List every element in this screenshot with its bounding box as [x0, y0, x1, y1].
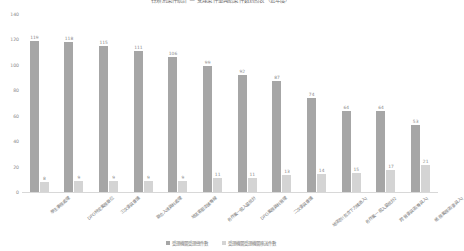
bar-group: 1069: [161, 57, 196, 192]
legend-swatch-icon: [222, 241, 226, 245]
x-axis-tick-label: 地區別(包含下方構造入): [331, 195, 368, 227]
y-axis-tick-label: 0: [0, 190, 19, 195]
bar-value-label: 64: [344, 105, 350, 110]
bar-group: 1198: [22, 41, 57, 192]
bar-secondary: 8: [40, 182, 49, 192]
bar-secondary: 11: [213, 178, 222, 192]
legend-label: 受理機關受理總件數: [172, 240, 208, 246]
x-axis-tick-label: 帳務業務區(委員入): [433, 195, 464, 222]
bar-group: 8713: [265, 81, 300, 192]
y-axis-tick-label: 140: [0, 12, 19, 17]
legend-entry[interactable]: 受理機關受理機關移送件數: [222, 240, 276, 246]
bar-secondary: 13: [282, 175, 291, 192]
x-axis-tick-label: 地區客服支援專線: [189, 195, 217, 220]
bar-value-label: 106: [169, 51, 177, 56]
bar-value-label: 8: [43, 176, 46, 181]
bar-value-label: 119: [30, 35, 38, 40]
bar-value-label: 17: [388, 164, 394, 169]
bar-primary: 111: [134, 51, 143, 192]
bar-value-label: 99: [205, 60, 211, 65]
bar-primary: 92: [238, 75, 247, 192]
bar-secondary: 17: [386, 170, 395, 192]
bar-secondary: 9: [144, 181, 153, 192]
plot-area: 1198118911591119106999119211871374146415…: [22, 14, 438, 192]
x-axis-tick-label: 各作業一般入量統計: [225, 195, 256, 223]
x-axis-tick-label: 三次委員會議: [118, 195, 140, 215]
y-axis-tick-label: 80: [0, 88, 19, 93]
bar-primary: 64: [342, 111, 351, 192]
bar-primary: 74: [307, 98, 316, 192]
bar-primary: 99: [203, 66, 212, 192]
bar-value-label: 87: [274, 75, 280, 80]
bar-secondary: 9: [109, 181, 118, 192]
y-axis-tick-label: 60: [0, 113, 19, 118]
bar-primary: 119: [30, 41, 39, 192]
axis-baseline: [22, 192, 438, 193]
y-axis-tick-label: 40: [0, 139, 19, 144]
bar-value-label: 9: [112, 175, 115, 180]
bar-secondary: 21: [421, 165, 430, 192]
x-axis-tick-label: 聯合入境資料處理: [155, 195, 183, 220]
bar-value-label: 13: [284, 169, 290, 174]
x-axis-tick-label: 二次委員會議: [292, 195, 314, 215]
bar-value-label: 21: [423, 159, 429, 164]
y-axis-tick-label: 20: [0, 164, 19, 169]
bar-group: 9211: [230, 75, 265, 192]
legend-swatch-icon: [166, 241, 170, 245]
bar-group: 5321: [403, 125, 438, 192]
bar-primary: 106: [168, 57, 177, 192]
x-axis-tick-label: 學生事務處理: [49, 195, 71, 215]
x-axis-tick-label: DPO業務資料管理: [259, 195, 288, 221]
bar-value-label: 14: [319, 168, 325, 173]
bar-group: 9911: [195, 66, 230, 192]
x-axis-tick-label: DPO特定業務單位: [86, 195, 115, 221]
chart-title: 各類別案件統計 — 受理案件量與結案件數對照表（近年度）: [0, 0, 442, 4]
bar-secondary: 15: [352, 173, 361, 192]
legend-entry[interactable]: 受理機關受理總件數: [166, 240, 208, 246]
bar-value-label: 11: [250, 172, 256, 177]
bar-value-label: 92: [240, 69, 246, 74]
bar-primary: 115: [99, 46, 108, 192]
bar-primary: 87: [272, 81, 281, 192]
bar-value-label: 111: [134, 45, 142, 50]
bar-secondary: 14: [317, 174, 326, 192]
bar-value-label: 118: [65, 36, 73, 41]
bar-group: 6415: [334, 111, 369, 192]
bar-secondary: 9: [74, 181, 83, 192]
bar-value-label: 53: [413, 119, 419, 124]
bar-group: 6417: [369, 111, 404, 192]
bar-value-label: 15: [354, 167, 360, 172]
bar-secondary: 9: [178, 181, 187, 192]
bar-value-label: 9: [147, 175, 150, 180]
bar-secondary: 11: [248, 178, 257, 192]
bar-value-label: 115: [99, 40, 107, 45]
bar-group: 1119: [126, 51, 161, 192]
bar-value-label: 9: [78, 175, 81, 180]
legend-label: 受理機關受理機關移送件數: [228, 240, 276, 246]
x-axis-tick-label: 跨管委員區(專員入): [398, 195, 429, 222]
chart-legend: 受理機關受理總件數受理機關受理機關移送件數: [0, 240, 442, 246]
bar-group: 1159: [91, 46, 126, 192]
bar-group: 1189: [57, 42, 92, 192]
y-axis-tick-label: 120: [0, 37, 19, 42]
bar-primary: 64: [376, 111, 385, 192]
bar-value-label: 74: [309, 92, 315, 97]
bar-primary: 53: [411, 125, 420, 192]
bar-primary: 118: [64, 42, 73, 192]
x-axis-tick-label: 各作業一般入量統計2: [364, 195, 398, 224]
bar-value-label: 11: [215, 172, 221, 177]
bar-group: 7414: [299, 98, 334, 192]
bar-value-label: 64: [378, 105, 384, 110]
bar-value-label: 9: [182, 175, 185, 180]
y-axis-tick-label: 100: [0, 62, 19, 67]
